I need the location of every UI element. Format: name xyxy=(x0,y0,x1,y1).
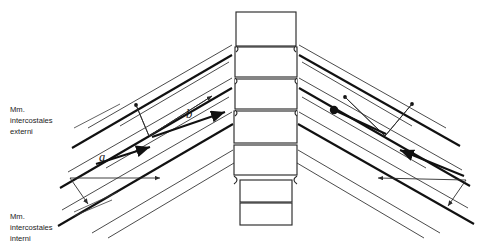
external-label-line2: intercostales xyxy=(10,116,53,125)
vertebra-4 xyxy=(234,111,297,143)
ribs-right-group xyxy=(297,45,474,238)
vertebra-6 xyxy=(240,180,292,202)
rib-left-4-upper xyxy=(92,150,233,233)
disc-notch-left-2 xyxy=(235,78,237,84)
fiber-right-lower-horizontal xyxy=(378,178,466,180)
vertebra-5 xyxy=(234,145,297,175)
anatomy-diagram: b a xyxy=(0,0,486,252)
disc-notch-right-2 xyxy=(295,78,297,84)
vertebra-1 xyxy=(236,12,296,46)
fiber-right-lower-bold xyxy=(400,150,464,176)
disc-notch-right-1 xyxy=(294,46,296,52)
rib-right-1-upper xyxy=(299,45,446,128)
internal-label-line3: interni xyxy=(10,234,31,243)
leader-internal-2 xyxy=(74,192,118,212)
vertebra-2 xyxy=(235,47,297,77)
external-label-line1: Mm. xyxy=(10,105,25,114)
fiber-left-upper-return xyxy=(149,96,212,136)
ribs-left-group xyxy=(58,45,234,238)
disc-notch-right-3 xyxy=(295,110,297,116)
fiber-right-upper-return xyxy=(385,104,412,136)
rib-right-2-upper xyxy=(299,78,462,170)
fiber-group-right-lower xyxy=(378,150,466,206)
label-external-muscle: Mm. intercostales externi xyxy=(10,105,53,136)
internal-label-line1: Mm. xyxy=(10,212,25,221)
vertebra-7 xyxy=(240,203,292,225)
rib-right-inner-1 xyxy=(302,62,412,126)
external-label-line3: externi xyxy=(10,127,33,136)
vertebral-column xyxy=(234,12,297,225)
disc-notch-left-1 xyxy=(236,46,238,52)
rib-right-4-lower xyxy=(297,163,424,238)
disc-notch-left-3 xyxy=(235,110,237,116)
leader-internal-1 xyxy=(74,200,112,216)
vertebra-3 xyxy=(235,79,297,109)
internal-label-line2: intercostales xyxy=(10,223,53,232)
marker-a-label: a xyxy=(99,150,105,164)
rib-left-4-lower xyxy=(108,163,234,238)
marker-b-label: b xyxy=(186,107,192,121)
rib-right-1-lower xyxy=(299,55,460,146)
label-internal-muscle: Mm. intercostales interni xyxy=(10,212,53,243)
disc-notch-right-4 xyxy=(294,176,297,184)
figure-canvas: b a xyxy=(0,0,486,252)
rib-left-1-upper xyxy=(88,45,232,128)
rib-left-2-lower xyxy=(60,88,232,188)
rib-right-inner-2 xyxy=(302,97,426,168)
disc-notch-left-4 xyxy=(234,176,237,184)
